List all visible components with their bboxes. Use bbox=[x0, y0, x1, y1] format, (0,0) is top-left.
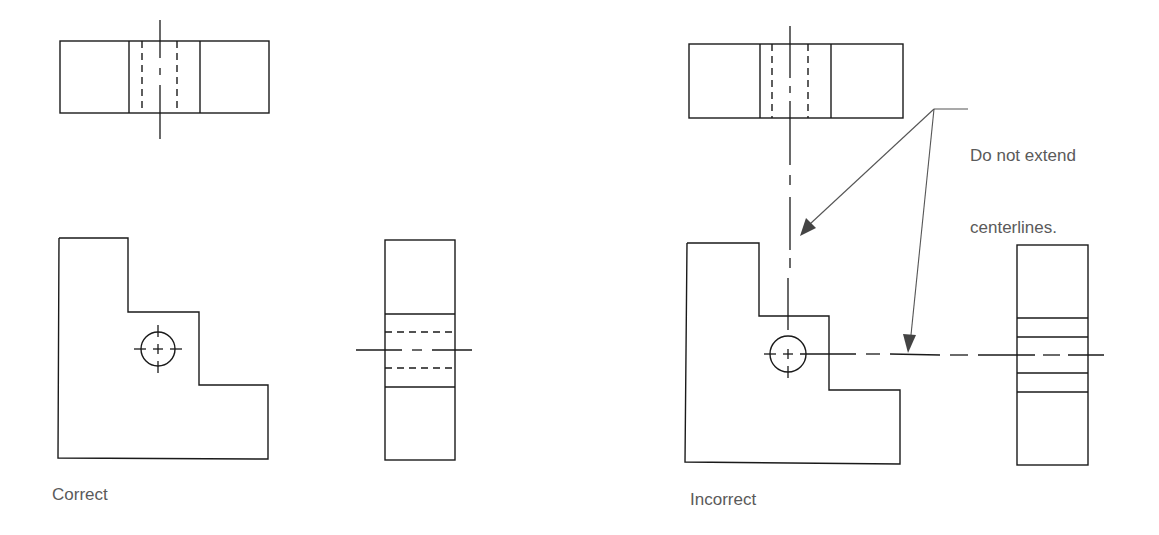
extended-vertical-centerline bbox=[788, 118, 790, 330]
correct-front-view bbox=[58, 238, 268, 459]
caption-incorrect: Incorrect bbox=[690, 491, 756, 508]
drawing-canvas bbox=[0, 0, 1159, 535]
top-view-outline bbox=[60, 41, 269, 113]
correct-panel bbox=[58, 20, 472, 460]
correct-top-view bbox=[60, 20, 269, 139]
arrowhead-icon bbox=[903, 334, 916, 353]
incorrect-top-view bbox=[689, 26, 903, 118]
annotation-line-2: centerlines. bbox=[970, 216, 1076, 240]
leader-line bbox=[911, 109, 934, 335]
annotation-line-1: Do not extend bbox=[970, 144, 1076, 168]
top-view-outline bbox=[689, 44, 903, 118]
caption-correct: Correct bbox=[52, 486, 108, 503]
correct-side-view bbox=[356, 240, 472, 460]
annotation-note: Do not extend centerlines. bbox=[970, 96, 1076, 264]
extended-horizontal-centerline bbox=[800, 354, 1104, 355]
leader-line bbox=[810, 109, 934, 224]
centerline bbox=[890, 354, 940, 355]
